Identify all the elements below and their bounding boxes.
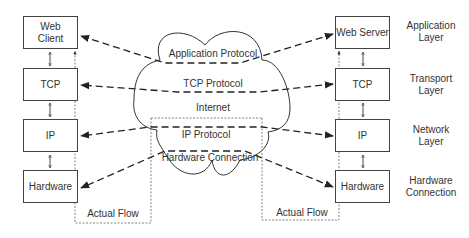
- layer-label-hardware-connection: Hardware Connection: [398, 175, 464, 199]
- client-ip-box: IP: [23, 119, 78, 152]
- actual-flow-right-label: Actual Flow: [276, 207, 328, 218]
- client-hardware-box: Hardware: [23, 170, 78, 203]
- client-web-client-box: Web Client: [23, 16, 78, 49]
- server-hardware-box: Hardware: [335, 170, 390, 203]
- server-web-server-box: Web Server: [335, 16, 390, 49]
- client-tcp-box: TCP: [23, 68, 78, 101]
- internet-label: Internet: [196, 102, 230, 113]
- tcp-ip-layer-diagram: Web Client TCP IP Hardware Web Server TC…: [0, 0, 469, 238]
- server-ip-box: IP: [335, 119, 390, 152]
- layer-label-transport: Transport Layer: [398, 73, 464, 97]
- layer-label-network: Network Layer: [398, 124, 464, 148]
- ip-protocol-label: IP Protocol: [182, 129, 231, 140]
- server-tcp-box: TCP: [335, 68, 390, 101]
- actual-flow-left-label: Actual Flow: [87, 208, 139, 219]
- application-protocol-label: Application Protocol: [169, 48, 257, 59]
- layer-label-application: Application Layer: [398, 20, 464, 44]
- hardware-connection-label: Hardware Connection: [162, 152, 259, 163]
- tcp-protocol-label: TCP Protocol: [183, 78, 242, 89]
